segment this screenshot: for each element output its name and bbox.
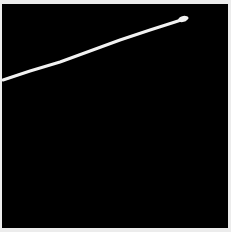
white-stroke <box>0 0 231 232</box>
image-frame <box>0 0 231 232</box>
